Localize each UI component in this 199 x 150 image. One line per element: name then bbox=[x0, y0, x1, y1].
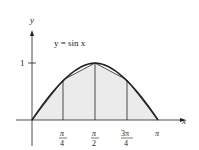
x-tick-3pi4-den: 4 bbox=[124, 139, 128, 148]
chart-labels: y x y = sin x 1 π 4 π 2 3π 4 π bbox=[0, 0, 199, 150]
x-tick-pi4-den: 4 bbox=[60, 139, 64, 148]
x-tick-3pi4-num: 3π bbox=[121, 129, 129, 138]
x-tick-pi: π bbox=[155, 129, 160, 138]
x-tick-pi4-num: π bbox=[60, 129, 65, 138]
y-axis-label: y bbox=[29, 15, 34, 25]
x-tick-pi2-num: π bbox=[92, 129, 97, 138]
y-tick-label-1: 1 bbox=[20, 58, 25, 68]
x-tick-pi2-den: 2 bbox=[92, 139, 96, 148]
x-axis-label: x bbox=[181, 116, 186, 126]
chart-title: y = sin x bbox=[54, 38, 86, 48]
